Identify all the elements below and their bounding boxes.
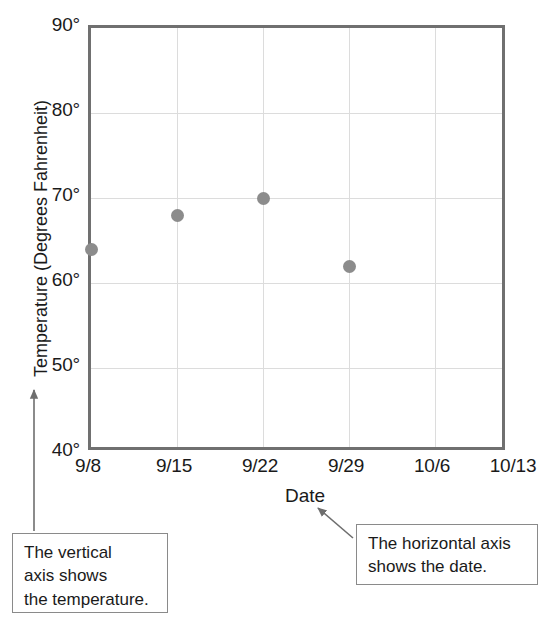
callout-vertical-axis: The vertical axis shows the temperature. — [12, 533, 168, 613]
callout-vertical-line-2: axis shows — [24, 564, 157, 587]
x-tick-9-22: 9/22 — [242, 455, 278, 477]
callout-vertical-line-3: the temperature. — [24, 588, 157, 611]
callout-vertical-line-1: The vertical — [24, 541, 157, 564]
x-tick-9-15: 9/15 — [156, 455, 192, 477]
chart-page: 90° 80° 70° 60° 50° 40° 9/8 9/15 9/22 9/… — [0, 0, 548, 631]
callout-horizontal-line-1: The horizontal axis — [368, 532, 527, 555]
x-axis-title: Date — [285, 485, 325, 507]
callout-horizontal-axis: The horizontal axis shows the date. — [356, 524, 538, 585]
callout-horizontal-line-2: shows the date. — [368, 555, 527, 578]
x-tick-9-8: 9/8 — [75, 455, 101, 477]
x-tick-10-13: 10/13 — [490, 455, 537, 477]
x-tick-9-29: 9/29 — [328, 455, 364, 477]
x-tick-10-6: 10/6 — [414, 455, 450, 477]
y-axis-title: Temperature (Degrees Fahrenheit) — [31, 89, 52, 389]
